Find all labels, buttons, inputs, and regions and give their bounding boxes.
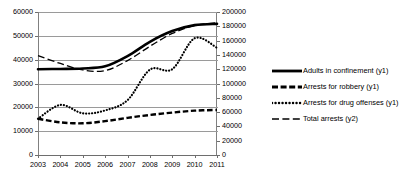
y1-tick-label: 30000 <box>13 80 33 87</box>
y2-tick-label: 40000 <box>222 122 242 129</box>
series-layer <box>38 12 217 155</box>
y2-tick-label: 120000 <box>222 65 246 72</box>
y2-tick-mark <box>217 126 220 127</box>
x-tick-mark <box>172 155 173 158</box>
x-tick-mark <box>105 155 106 158</box>
x-tick-label: 2005 <box>71 161 95 168</box>
y1-tick-label: 60000 <box>13 8 33 15</box>
x-tick-label: 2009 <box>160 161 184 168</box>
x-tick-label: 2011 <box>205 161 229 168</box>
dashed-thick-swatch <box>272 82 302 92</box>
y2-tick-label: 140000 <box>222 51 246 58</box>
series-line <box>38 24 217 69</box>
y2-tick-label: 200000 <box>222 8 246 15</box>
x-tick-label: 2003 <box>26 161 50 168</box>
legend-item[interactable]: Adults in confinement (y1) <box>272 63 414 79</box>
x-tick-label: 2004 <box>48 161 72 168</box>
x-tick-mark <box>38 155 39 158</box>
x-tick-label: 2006 <box>93 161 117 168</box>
x-tick-mark <box>217 155 218 158</box>
y2-tick-label: 80000 <box>222 94 242 101</box>
y1-tick-label: 0 <box>29 151 33 158</box>
legend-item[interactable]: Total arrests (y2) <box>272 111 414 127</box>
y2-tick-mark <box>217 69 220 70</box>
series-line <box>38 110 217 123</box>
legend-item-label: Adults in confinement (y1) <box>303 67 388 75</box>
y2-tick-mark <box>217 41 220 42</box>
solid-thick-swatch <box>272 66 302 76</box>
x-tick-mark <box>128 155 129 158</box>
legend-item[interactable]: Arrests for robbery (y1) <box>272 79 414 95</box>
y2-tick-label: 180000 <box>222 22 246 29</box>
y1-tick-label: 20000 <box>13 103 33 110</box>
y2-tick-label: 0 <box>222 151 226 158</box>
chart-figure: 0100002000030000400005000060000 02000040… <box>0 0 414 184</box>
dotted-swatch <box>272 98 302 108</box>
legend-item-label: Arrests for drug offenses (y1) <box>303 99 399 107</box>
y2-tick-mark <box>217 84 220 85</box>
x-tick-mark <box>150 155 151 158</box>
x-tick-mark <box>195 155 196 158</box>
y2-tick-mark <box>217 98 220 99</box>
y1-tick-label: 40000 <box>13 56 33 63</box>
legend-item[interactable]: Arrests for drug offenses (y1) <box>272 95 414 111</box>
legend-item-label: Total arrests (y2) <box>303 115 358 123</box>
x-tick-label: 2007 <box>116 161 140 168</box>
y2-tick-label: 60000 <box>222 108 242 115</box>
x-tick-label: 2008 <box>138 161 162 168</box>
chart-legend: Adults in confinement (y1)Arrests for ro… <box>272 63 414 127</box>
y1-tick-label: 10000 <box>13 127 33 134</box>
y1-tick-label: 50000 <box>13 32 33 39</box>
series-line <box>38 38 217 119</box>
x-tick-label: 2010 <box>183 161 207 168</box>
y2-tick-mark <box>217 141 220 142</box>
series-line <box>38 23 217 72</box>
y2-tick-label: 20000 <box>222 137 242 144</box>
y2-tick-mark <box>217 55 220 56</box>
x-tick-mark <box>60 155 61 158</box>
x-tick-mark <box>83 155 84 158</box>
legend-item-label: Arrests for robbery (y1) <box>303 83 379 91</box>
y2-tick-mark <box>217 12 220 13</box>
y2-tick-label: 160000 <box>222 37 246 44</box>
y2-tick-label: 100000 <box>222 80 246 87</box>
dashed-long-swatch <box>272 114 302 124</box>
y2-tick-mark <box>217 26 220 27</box>
y2-tick-mark <box>217 112 220 113</box>
gridline <box>39 155 218 156</box>
